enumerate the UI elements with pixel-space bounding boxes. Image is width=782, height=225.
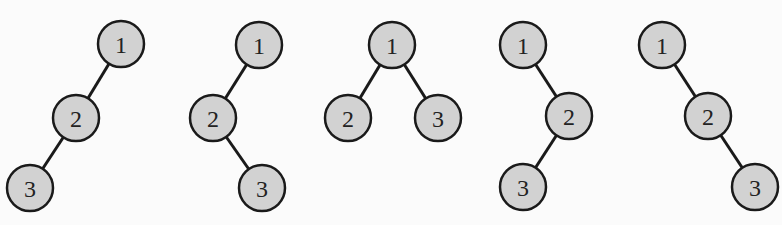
node-label: 3 bbox=[256, 176, 268, 202]
tree-2: 123 bbox=[190, 22, 285, 211]
node-label: 2 bbox=[702, 104, 714, 130]
tree-node: 2 bbox=[546, 93, 592, 139]
tree-node: 1 bbox=[236, 22, 282, 68]
node-label: 3 bbox=[517, 175, 529, 201]
diagram-canvas: 123123123123123 bbox=[0, 0, 782, 225]
node-label: 2 bbox=[70, 106, 82, 132]
node-label: 1 bbox=[115, 32, 127, 58]
node-label: 2 bbox=[207, 106, 219, 132]
node-label: 2 bbox=[563, 104, 575, 130]
tree-node: 1 bbox=[639, 22, 685, 68]
node-label: 1 bbox=[656, 33, 668, 59]
tree-node: 3 bbox=[500, 164, 546, 210]
tree-node: 1 bbox=[98, 21, 144, 67]
tree-4: 123 bbox=[500, 22, 592, 210]
tree-5: 123 bbox=[639, 22, 778, 210]
tree-node: 3 bbox=[239, 165, 285, 211]
tree-node: 1 bbox=[369, 22, 415, 68]
node-label: 1 bbox=[517, 33, 529, 59]
node-label: 3 bbox=[24, 176, 36, 202]
tree-node: 2 bbox=[190, 95, 236, 141]
node-label: 1 bbox=[386, 33, 398, 59]
tree-node: 2 bbox=[685, 93, 731, 139]
tree-node: 3 bbox=[7, 165, 53, 211]
tree-node: 3 bbox=[732, 164, 778, 210]
tree-node: 1 bbox=[500, 22, 546, 68]
tree-3: 123 bbox=[325, 22, 461, 141]
tree-1: 123 bbox=[7, 21, 144, 211]
node-label: 3 bbox=[432, 106, 444, 132]
tree-node: 2 bbox=[325, 95, 371, 141]
tree-node: 3 bbox=[415, 95, 461, 141]
node-label: 3 bbox=[749, 175, 761, 201]
tree-node: 2 bbox=[53, 95, 99, 141]
node-label: 1 bbox=[253, 33, 265, 59]
binary-trees-diagram: 123123123123123 bbox=[0, 0, 782, 225]
node-label: 2 bbox=[342, 106, 354, 132]
